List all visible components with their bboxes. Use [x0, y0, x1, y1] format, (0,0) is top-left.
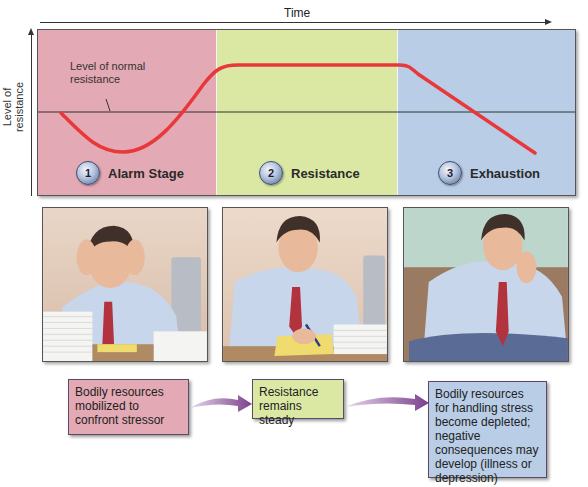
- illustration-alarm: [42, 207, 208, 362]
- stage-name: Exhaustion: [470, 166, 540, 181]
- y-axis-line: [31, 34, 32, 196]
- description-exhaustion: Bodily resources for handling stress bec…: [428, 381, 547, 478]
- illustration-exhaustion: [403, 207, 569, 362]
- exhausted-man-illustration: [404, 208, 568, 361]
- working-man-illustration: [223, 208, 387, 361]
- normal-resistance-label: Level of normal resistance: [70, 60, 150, 86]
- description-resistance: Resistance remains steady: [252, 379, 344, 419]
- flow-arrow-icon: [188, 392, 254, 414]
- stage-label-resistance: 2 Resistance: [259, 161, 360, 185]
- stressed-man-illustration: [43, 208, 207, 361]
- x-axis-arrow-icon: [545, 19, 552, 25]
- stress-response-chart: Level of normal resistance 1 Alarm Stage…: [37, 29, 576, 196]
- stage-label-exhaustion: 3 Exhaustion: [438, 161, 540, 185]
- stage-number-badge: 2: [259, 161, 283, 185]
- illustration-resistance: [222, 207, 388, 362]
- flow-arrow-icon: [343, 391, 431, 413]
- description-alarm: Bodily resources mobilized to confront s…: [68, 379, 189, 435]
- stage-number-badge: 3: [438, 161, 462, 185]
- stage-number-badge: 1: [76, 161, 100, 185]
- x-axis-line: [40, 22, 546, 23]
- x-axis-label: Time: [284, 6, 310, 20]
- stage-name: Resistance: [291, 166, 360, 181]
- stage-name: Alarm Stage: [108, 166, 184, 181]
- y-axis-label: Level of resistance: [1, 72, 25, 142]
- stage-label-alarm: 1 Alarm Stage: [76, 161, 184, 185]
- y-axis-arrow-icon: [28, 28, 34, 35]
